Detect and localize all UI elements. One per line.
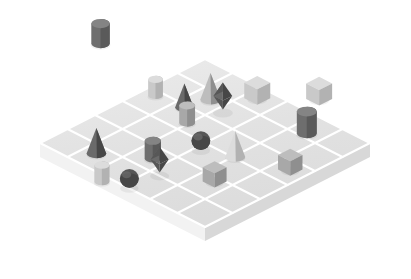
cylinder-cap-top: [91, 19, 109, 28]
object-shadow: [150, 172, 169, 181]
object-shadow: [213, 108, 233, 117]
cylinder-left-light[interactable]: [148, 76, 164, 101]
cylinder-cap-top: [297, 107, 317, 117]
sphere-lower-dark[interactable]: [120, 169, 139, 193]
cube-top[interactable]: [306, 77, 332, 106]
scene-canvas: [0, 0, 411, 279]
sphere-highlight: [122, 171, 131, 178]
cylinder-cap-top: [145, 137, 161, 145]
cylinder-bottom-light[interactable]: [94, 161, 110, 186]
cylinder-far-left[interactable]: [91, 19, 111, 50]
cylinder-cap-top: [148, 76, 163, 83]
cylinder-top-right[interactable]: [296, 107, 318, 140]
sphere-highlight: [193, 133, 202, 140]
cylinder-cap-top: [94, 161, 109, 169]
sphere-center-dark[interactable]: [191, 131, 210, 155]
isometric-scene: [0, 0, 411, 279]
cylinder-center-mid[interactable]: [179, 102, 196, 129]
cylinder-cap-top: [179, 102, 195, 110]
